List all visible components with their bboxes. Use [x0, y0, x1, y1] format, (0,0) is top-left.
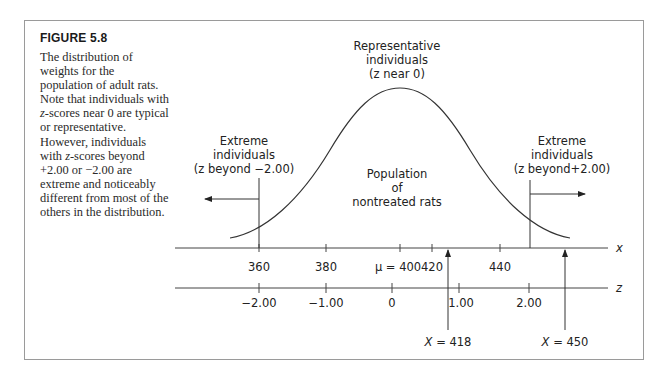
z-axis-label: z	[615, 281, 623, 295]
x-axis-label: x	[615, 241, 623, 255]
x-tick-360: 360	[248, 260, 270, 274]
svg-text:(z near 0): (z near 0)	[369, 67, 425, 81]
svg-text:of: of	[391, 181, 403, 195]
x-tick-420: 420	[421, 260, 443, 274]
svg-text:nontreated rats: nontreated rats	[352, 195, 442, 209]
annotation-population: Population of nontreated rats	[352, 167, 442, 209]
svg-text:(z beyond+2.00): (z beyond+2.00)	[514, 162, 611, 176]
x-tick-440: 440	[489, 260, 511, 274]
x-tick-400: μ = 400	[375, 260, 421, 274]
normal-distribution-diagram: x 360 380 μ = 400 420 440 z −2.00 −1.00 …	[0, 0, 671, 382]
z-tick-1: 1.00	[448, 296, 474, 310]
marker-450-label: X = 450	[541, 335, 589, 349]
svg-text:(z beyond −2.00): (z beyond −2.00)	[194, 162, 294, 176]
z-tick-0: 0	[388, 296, 395, 310]
marker-418-label: X = 418	[424, 335, 472, 349]
svg-text:individuals: individuals	[366, 53, 428, 67]
svg-text:individuals: individuals	[531, 148, 593, 162]
annotation-left-extreme: Extreme individuals (z beyond −2.00)	[194, 134, 294, 176]
z-tick-neg2: −2.00	[241, 296, 276, 310]
z-tick-neg1: −1.00	[308, 296, 343, 310]
z-tick-2: 2.00	[516, 296, 542, 310]
annotation-right-extreme: Extreme individuals (z beyond+2.00)	[514, 134, 611, 176]
annotation-representative: Representative individuals (z near 0)	[354, 39, 441, 81]
svg-text:Population: Population	[367, 167, 427, 181]
svg-text:Representative: Representative	[354, 39, 441, 53]
svg-text:Extreme: Extreme	[538, 134, 586, 148]
x-tick-380: 380	[315, 260, 337, 274]
svg-text:Extreme: Extreme	[220, 134, 268, 148]
svg-text:individuals: individuals	[213, 148, 275, 162]
